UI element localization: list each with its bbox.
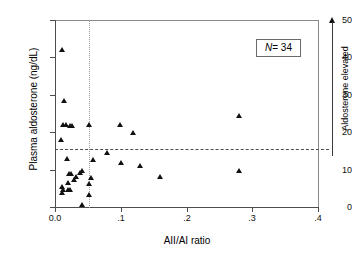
data-point [117,122,123,127]
x-tick-label: .1 [101,214,141,223]
annotation-arrow-shaft [332,22,333,156]
x-tick-label: .2 [167,214,207,223]
y-axis-label: Plasma aldosterone (ng/dL) [29,9,39,209]
x-tick [187,207,188,212]
y-tick [50,95,55,96]
plot-frame-right [318,20,319,208]
x-tick-label: .3 [232,214,272,223]
data-point [118,160,124,165]
y-tick-label: 0 [306,203,352,212]
data-point [157,174,163,179]
x-tick [252,207,253,212]
data-point [88,175,94,180]
data-point [59,190,65,195]
x-tick [318,207,319,212]
y-tick [50,20,55,21]
data-point [86,181,92,186]
data-point [69,123,75,128]
data-point [90,157,96,162]
data-point [79,202,85,207]
data-point [64,156,70,161]
x-tick [55,207,56,212]
aldosterone-elevated-label: Aldosterone elevated [341,9,350,169]
y-tick [50,170,55,171]
data-point [67,187,73,192]
data-point [236,168,242,173]
data-point [130,130,136,135]
data-point [58,137,64,142]
data-point [59,47,65,52]
sample-size-box: N= 34 [256,39,301,57]
x-axis-label: AII/AI ratio [55,236,319,246]
x-tick-label: .4 [298,214,338,223]
data-point [71,177,77,182]
y-axis-line [55,20,56,208]
data-point [137,163,143,168]
y-tick [50,132,55,133]
plot-frame-top [55,20,319,21]
data-point [65,180,71,185]
data-point [86,122,92,127]
x-tick [121,207,122,212]
horizontal-reference-line [55,149,329,150]
data-point [61,98,67,103]
x-tick-label: 0.0 [35,214,75,223]
y-tick [50,57,55,58]
data-point [86,192,92,197]
scatter-plot-figure: 01020304050 0.0.1.2.3.4 Plasma aldostero… [0,0,352,269]
data-point [236,113,242,118]
data-point [104,150,110,155]
data-point [79,168,85,173]
sample-size-value: = 34 [272,42,292,53]
